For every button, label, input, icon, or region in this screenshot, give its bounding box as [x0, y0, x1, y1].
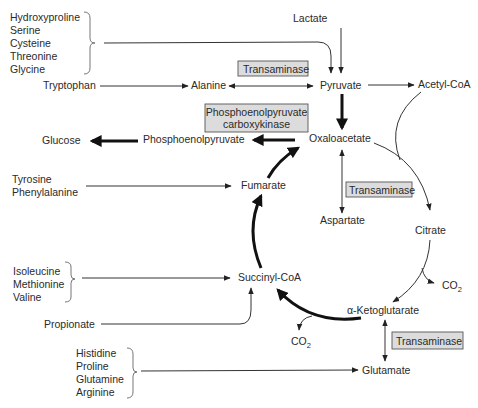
node-co2-right: CO2 [442, 279, 462, 294]
label-tyrosine: Tyrosine [12, 173, 52, 185]
metabolic-pathway-diagram: Hydroxyproline Serine Cysteine Threonine… [0, 0, 478, 408]
label-serine: Serine [10, 24, 41, 36]
label-cysteine: Cysteine [10, 37, 51, 49]
arrow-co2-release-citrate [422, 268, 434, 283]
brace-icon [84, 12, 95, 74]
node-lactate: Lactate [293, 12, 328, 24]
enzyme-transaminase-alanine: Transaminase [243, 63, 309, 75]
label-glutamine: Glutamine [76, 373, 124, 385]
node-citrate: Citrate [415, 224, 446, 236]
curve-acetylcoa-into-cycle [396, 92, 421, 160]
label-hydroxyproline: Hydroxyproline [10, 11, 80, 23]
label-proline: Proline [76, 360, 109, 372]
node-pep: Phosphoenolpyruvate [143, 133, 245, 145]
arrow-group-to-glutamate [141, 370, 358, 371]
brace-icon [127, 348, 137, 398]
label-glycine: Glycine [10, 63, 45, 75]
node-fumarate: Fumarate [241, 179, 286, 191]
node-glucose: Glucose [42, 134, 81, 146]
node-alanine: Alanine [191, 79, 226, 91]
label-isoleucine: Isoleucine [13, 265, 60, 277]
label-histidine: Histidine [76, 347, 116, 359]
arrow-propionate-to-succinylcoa [101, 288, 251, 324]
label-valine: Valine [13, 291, 42, 303]
amino-acid-group-bottom-left: Histidine Proline Glutamine Arginine [76, 347, 137, 398]
amino-acid-group-top-left: Hydroxyproline Serine Cysteine Threonine… [10, 11, 95, 75]
node-propionate: Propionate [44, 318, 95, 330]
node-acetyl-coa: Acetyl-CoA [418, 78, 471, 90]
arrow-succinylcoa-to-fumarate [253, 196, 261, 268]
arrow-oxaloacetate-to-citrate [374, 143, 430, 210]
node-pyruvate: Pyruvate [320, 79, 362, 91]
node-oxaloacetate: Oxaloacetate [309, 132, 371, 144]
node-tryptophan: Tryptophan [43, 79, 96, 91]
enzyme-transaminase-glutamate: Transaminase [396, 335, 462, 347]
node-aspartate: Aspartate [320, 214, 365, 226]
label-methionine: Methionine [13, 278, 65, 290]
node-succinyl-coa: Succinyl-CoA [238, 271, 301, 283]
brace-icon [65, 262, 75, 302]
enzyme-transaminase-aspartate: Transaminase [349, 184, 415, 196]
label-arginine: Arginine [76, 386, 115, 398]
amino-acid-group-succinyl: Isoleucine Methionine Valine [13, 262, 75, 303]
label-phenylalanine: Phenylalanine [12, 186, 78, 198]
arrow-co2-release-alphakg [299, 316, 312, 330]
label-threonine: Threonine [10, 50, 57, 62]
node-co2-bottom: CO2 [291, 335, 311, 350]
enzyme-pepck-line1: Phosphoenolpyruvate [206, 106, 308, 118]
node-glutamate: Glutamate [362, 364, 411, 376]
enzyme-pepck-line2: carboxykinase [223, 118, 290, 130]
arrow-fumarate-to-oxaloacetate [268, 148, 298, 178]
node-alpha-ketoglutarate: α-Ketoglutarate [347, 304, 419, 316]
arrow-citrate-to-alphakg [393, 240, 430, 302]
